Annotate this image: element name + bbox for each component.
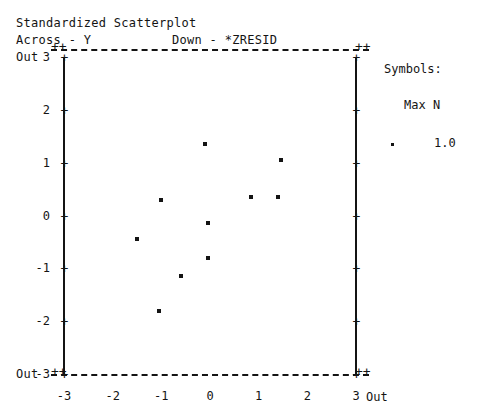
scatterplot-page: Standardized Scatterplot Across - Y Down… — [0, 0, 496, 419]
legend-title: Symbols: — [384, 62, 442, 76]
page-title: Standardized Scatterplot — [16, 16, 197, 30]
y-tick-label: 1 — [16, 157, 50, 169]
x-tick-label: 1 — [247, 390, 271, 402]
data-point — [206, 221, 210, 225]
x-tick-label: 2 — [295, 390, 319, 402]
y-tick-label: 0 — [16, 210, 50, 222]
border-endcap: ++ — [51, 367, 67, 377]
x-tick-label: 0 — [198, 390, 222, 402]
x-tick-label: -2 — [101, 390, 125, 402]
axis-tick: + — [60, 106, 69, 115]
data-point — [206, 256, 210, 260]
plot-area: ++++++++++++++++++++++ — [64, 57, 356, 374]
axis-tick: + — [60, 212, 69, 221]
y-tick-label: 3 — [16, 51, 50, 63]
data-point — [203, 142, 207, 146]
axis-tick: + — [352, 317, 361, 326]
data-point — [179, 274, 183, 278]
y-tick-label: -2 — [16, 315, 50, 327]
y-tick-label: 2 — [16, 104, 50, 116]
x-tick-label: 3 — [344, 390, 368, 402]
y-tick-label: -1 — [16, 262, 50, 274]
x-tick-label: -3 — [52, 390, 76, 402]
data-point — [157, 309, 161, 313]
axis-tick: + — [352, 53, 361, 62]
axis-tick: + — [352, 159, 361, 168]
data-point — [279, 158, 283, 162]
y-tick-label: -3 — [16, 368, 50, 380]
legend: Symbols: Max N 1.0 — [378, 0, 496, 419]
axis-tick: + — [352, 264, 361, 273]
axis-tick: + — [60, 317, 69, 326]
data-point — [276, 195, 280, 199]
plot-bottom-border — [51, 374, 369, 376]
axis-tick: + — [60, 53, 69, 62]
border-endcap: ++ — [355, 367, 371, 377]
data-point — [159, 198, 163, 202]
x-tick-label: -1 — [149, 390, 173, 402]
legend-sample-dot-icon — [391, 143, 394, 146]
legend-maxn-label: Max N — [404, 98, 440, 112]
axis-tick: + — [352, 212, 361, 221]
data-point — [249, 195, 253, 199]
down-axis-label: Down - *ZRESID — [172, 33, 277, 47]
axis-tick: + — [352, 106, 361, 115]
data-point — [135, 237, 139, 241]
border-endcap: ++ — [51, 42, 67, 52]
legend-maxn-value: 1.0 — [434, 136, 456, 150]
axis-tick: + — [60, 159, 69, 168]
border-endcap: ++ — [355, 42, 371, 52]
plot-top-border — [51, 49, 369, 51]
axis-tick: + — [60, 264, 69, 273]
